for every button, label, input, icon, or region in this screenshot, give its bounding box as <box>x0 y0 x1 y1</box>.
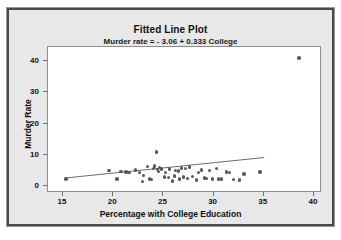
y-tick-mark <box>43 185 47 186</box>
y-tick-label: 40 <box>30 56 39 65</box>
data-point <box>64 177 68 181</box>
data-point <box>171 179 175 183</box>
data-point <box>160 167 164 171</box>
chart-title: Fitted Line Plot <box>9 24 332 35</box>
chart-subtitle: Murder rate = - 3.06 + 0.333 College <box>9 37 332 46</box>
y-tick-mark <box>43 91 47 92</box>
x-tick-mark <box>263 192 264 196</box>
x-tick-label: 15 <box>58 197 67 206</box>
y-tick-label: 0 <box>35 181 39 190</box>
x-axis-title: Percentage with College Education <box>9 209 332 219</box>
data-point <box>242 172 246 176</box>
fitted-line-plot-figure: Fitted Line Plot Murder rate = - 3.06 + … <box>7 8 334 226</box>
x-tick-label: 30 <box>208 197 217 206</box>
x-tick-label: 25 <box>158 197 167 206</box>
data-point <box>163 175 167 179</box>
y-axis-title: Murder Rate <box>23 69 33 179</box>
x-tick-mark <box>62 192 63 196</box>
x-tick-mark <box>213 192 214 196</box>
data-point <box>297 56 301 60</box>
x-tick-label: 40 <box>309 197 318 206</box>
data-point <box>188 165 192 169</box>
x-tick-label: 35 <box>258 197 267 206</box>
data-point <box>200 168 204 172</box>
data-point <box>134 168 138 172</box>
data-point <box>155 150 159 154</box>
x-tick-mark <box>112 192 113 196</box>
plot-area <box>47 46 321 192</box>
data-point <box>180 166 184 170</box>
y-tick-mark <box>43 123 47 124</box>
x-tick-label: 20 <box>108 197 117 206</box>
data-point <box>173 174 177 178</box>
data-point <box>258 170 262 174</box>
y-tick-mark <box>43 154 47 155</box>
x-tick-mark <box>313 192 314 196</box>
data-point <box>195 178 199 182</box>
x-tick-mark <box>162 192 163 196</box>
y-tick-mark <box>43 60 47 61</box>
data-point <box>182 175 186 179</box>
